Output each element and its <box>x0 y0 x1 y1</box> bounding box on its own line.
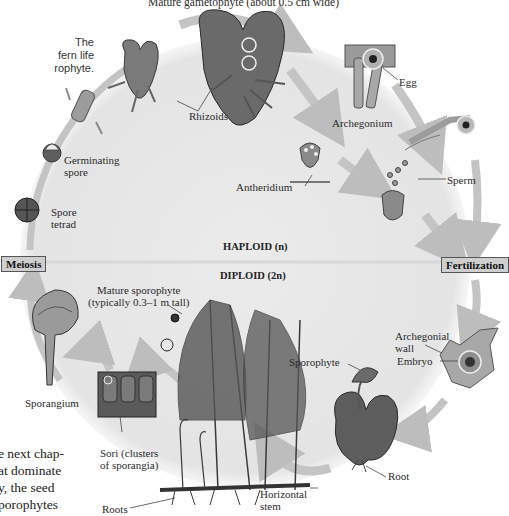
root-label: Root <box>388 470 409 482</box>
fertilization-box: Fertilization <box>441 257 509 273</box>
caption-line: fern life <box>0 49 94 62</box>
haploid-label: HAPLOID (n) <box>223 241 287 252</box>
sori-inset <box>98 372 156 417</box>
root-pointer <box>366 466 386 477</box>
mature-gametophyte-label: Mature gametophyte (about 0.5 cm wide) <box>148 0 339 8</box>
diploid-label: DIPLOID (2n) <box>220 270 286 281</box>
sori-label: Sori (clusters of sporangia) <box>100 447 158 471</box>
sperm-label: Sperm <box>447 174 476 186</box>
archegonial-wall-label: Archegonial wall <box>395 330 449 354</box>
figure-caption: The fern life rophyte. <box>0 36 94 75</box>
arrow-fertilization-down <box>470 280 477 335</box>
archegonium-label: Archegonium <box>332 117 392 129</box>
egg-pointer <box>383 68 398 80</box>
germinating-spore-label: Germinating spore <box>64 154 120 178</box>
antheridium-label: Antheridium <box>236 181 292 193</box>
caption-line: rophyte. <box>0 62 94 75</box>
spore-tetrad <box>15 198 39 222</box>
sporangium-label: Sporangium <box>25 397 79 409</box>
body-text-line: porophytes <box>0 496 64 513</box>
roots-pointer <box>130 498 175 508</box>
rhizoids-label: Rhizoids <box>189 110 228 122</box>
mature-sporophyte-label: Mature sporophyte (typically 0.3–1 m tal… <box>88 284 189 308</box>
caption-line: The <box>0 36 94 49</box>
body-text-line: at dominate <box>0 462 64 479</box>
horizontal-stem-label: Horizontal stem <box>260 488 307 512</box>
body-text-line: e next chap- <box>0 445 64 462</box>
germinating-spore <box>43 144 61 162</box>
sporophyte-label: Sporophyte <box>289 356 340 368</box>
meiosis-box: Meiosis <box>1 256 46 272</box>
body-text: e next chap- at dominate y, the seed por… <box>0 445 64 513</box>
body-text-line: y, the seed <box>0 479 64 496</box>
arrow-to-fertilization-2 <box>475 160 478 245</box>
spore-tetrad-label: Spore tetrad <box>51 206 77 230</box>
roots-label: Roots <box>102 503 128 515</box>
embryo-label: Embryo <box>397 355 432 367</box>
egg-label: Egg <box>399 76 417 88</box>
